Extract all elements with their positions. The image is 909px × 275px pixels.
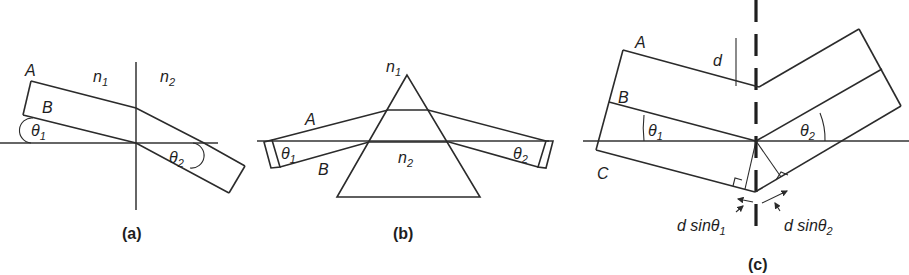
wavefront-end: [229, 166, 245, 193]
label-theta1: θ1: [31, 122, 46, 142]
diffracted-beam: [755, 29, 901, 192]
right-angle-left: [733, 178, 742, 186]
arrow-dsin2-a: [762, 191, 787, 203]
label-theta2: θ2: [169, 149, 184, 169]
caption-c: (c): [748, 256, 768, 273]
label-theta1: θ1: [281, 145, 296, 165]
label-n2: n2: [398, 149, 413, 169]
arrow-dsin1-b: [736, 206, 743, 212]
label-ray-a: A: [304, 111, 316, 128]
optics-diagram: A B n1 n2 θ1 θ2 (a) n1 n2 A B θ1 θ2 (b): [0, 0, 909, 275]
label-theta1: θ1: [648, 122, 663, 142]
ray-b-edge: [23, 115, 229, 193]
ray-b-incident: [609, 102, 756, 141]
ray-a-incident: [623, 50, 759, 87]
panel-a-refraction: A B n1 n2 θ1 θ2 (a): [0, 62, 245, 242]
label-dsin-theta1: d sinθ1: [677, 217, 726, 237]
label-n1: n1: [386, 58, 401, 78]
label-ray-b: B: [42, 99, 53, 116]
ray-c-incident: [596, 150, 755, 192]
label-ray-b: B: [318, 161, 329, 178]
angle-theta2-arc: [820, 113, 825, 141]
wavefront-start: [23, 81, 31, 115]
label-spacing-d: d: [713, 52, 723, 69]
label-dsin-theta2: d sinθ2: [784, 217, 833, 237]
perpendicular-right: [756, 141, 781, 177]
label-n1: n1: [93, 68, 108, 88]
diffracted-wavefront: [859, 29, 901, 106]
perpendicular-left: [745, 141, 756, 189]
label-ray-c: C: [597, 165, 609, 182]
panel-b-prism: n1 n2 A B θ1 θ2 (b): [257, 58, 553, 242]
caption-b: (b): [393, 225, 413, 242]
label-ray-b: B: [618, 89, 629, 106]
ray-b-diffracted: [756, 69, 882, 141]
incident-beam: [596, 50, 759, 192]
label-ray-a: A: [634, 34, 646, 51]
wavefront-right: [538, 141, 553, 168]
light-beam-a: [23, 81, 245, 193]
caption-a: (a): [122, 225, 142, 242]
label-theta2: θ2: [800, 122, 815, 142]
arrow-dsin2-b: [775, 203, 780, 211]
label-ray-a: A: [24, 62, 36, 79]
angle-theta1-arc: [643, 115, 644, 141]
arrow-dsin1-a: [738, 199, 753, 202]
wavefront-left: [264, 140, 280, 168]
ray-a-edge: [31, 81, 245, 166]
angle-theta2-arc: [190, 143, 204, 168]
ray-a-diffracted: [759, 29, 859, 87]
panel-c-grating: A d B C θ1 θ2 d sinθ1 d sinθ2 (c): [583, 0, 909, 273]
label-n2: n2: [160, 68, 175, 88]
prism-triangle: [337, 75, 480, 197]
